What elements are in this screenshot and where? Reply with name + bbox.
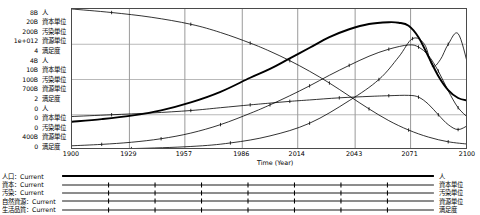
axis-unit: 資源単位: [38, 85, 66, 94]
plot-canvas: [72, 9, 467, 149]
axis-value: 4: [0, 46, 38, 55]
axis-value: 700B: [0, 84, 38, 93]
legend-row[interactable]: 人口：Current人: [0, 172, 480, 180]
series-line: [72, 22, 467, 122]
axis-row: 4B 人: [0, 56, 69, 65]
x-tick-label: 2100: [459, 150, 475, 158]
axis-unit: 満足度: [38, 95, 60, 104]
axis-unit: 人: [38, 105, 48, 114]
y-axis-group-middle: 4B 人 10B 資本単位 100B 汚染単位 700B 資源単位 2 満足度: [0, 56, 69, 103]
x-tick-label: 1986: [233, 150, 249, 158]
axis-row: 0 汚染単位: [0, 123, 69, 132]
axis-row: 0 人: [0, 104, 69, 113]
series-line: [72, 95, 467, 129]
axis-row: 400B 資源単位: [0, 132, 69, 141]
axis-unit: 資源単位: [38, 37, 66, 46]
axis-unit: 人: [38, 57, 48, 66]
axis-unit: 資本単位: [38, 18, 66, 27]
axis-row: 200B 汚染単位: [0, 27, 69, 36]
axis-row: 4 満足度: [0, 46, 69, 55]
axis-value: 2: [0, 94, 38, 103]
x-tick-label: 1957: [176, 150, 192, 158]
x-axis-title: Time (Year): [257, 159, 293, 167]
axis-unit: 汚染単位: [38, 124, 66, 133]
x-axis-ticks: 19001929195719862014204320712100: [0, 150, 480, 162]
legend-line-sample: [60, 181, 436, 189]
axis-value: 0: [0, 104, 38, 113]
axis-unit: 満足度: [38, 47, 60, 56]
axis-row: 8B 人: [0, 8, 69, 17]
x-tick-label: 1929: [120, 150, 136, 158]
legend-label: 生活品質：Current: [0, 205, 60, 214]
axis-value: 400B: [0, 132, 38, 141]
legend-row[interactable]: 生活品質：Current満足度: [0, 206, 480, 214]
axis-unit: 資本単位: [38, 114, 66, 123]
legend-row[interactable]: 資本：Current資本単位: [0, 180, 480, 188]
legend-line-sample: [60, 206, 436, 214]
axis-value: 0: [0, 113, 38, 122]
axis-value: 200B: [0, 27, 38, 36]
legend-line-sample: [60, 172, 436, 180]
axis-value: 100B: [0, 75, 38, 84]
axis-row: 100B 汚染単位: [0, 75, 69, 84]
series-line: [72, 33, 467, 149]
axis-value: 20B: [0, 17, 38, 26]
legend-line-sample: [60, 197, 436, 205]
axis-value: 4B: [0, 56, 38, 65]
axis-value: 1e+012: [0, 36, 38, 45]
axis-unit: 汚染単位: [38, 76, 66, 85]
x-tick-label: 1900: [63, 150, 79, 158]
series-line: [72, 9, 467, 144]
x-tick-label: 2071: [401, 150, 417, 158]
axis-unit: 資源単位: [38, 133, 66, 142]
axis-value: 8B: [0, 8, 38, 17]
legend-row[interactable]: 汚染：Current汚染単位: [0, 189, 480, 197]
x-tick-label: 2043: [346, 150, 362, 158]
axis-row: 10B 資本単位: [0, 65, 69, 74]
y-axis-group-top: 8B 人 20B 資本単位 200B 汚染単位 1e+012 資源単位 4 満足…: [0, 8, 69, 55]
axis-row: 2 満足度: [0, 94, 69, 103]
axis-row: 20B 資本単位: [0, 17, 69, 26]
axis-row: 0 資本単位: [0, 113, 69, 122]
chart-legend: 人口：Current人資本：Current資本単位汚染：Current汚染単位自…: [0, 172, 480, 215]
legend-line-sample: [60, 189, 436, 197]
axis-row: 1e+012 資源単位: [0, 36, 69, 45]
axis-unit: 汚染単位: [38, 28, 66, 37]
axis-value: 10B: [0, 65, 38, 74]
axis-unit: 人: [38, 9, 48, 18]
y-axis-label-stack: 8B 人 20B 資本単位 200B 汚染単位 1e+012 資源単位 4 満足…: [0, 0, 71, 150]
x-tick-label: 2014: [289, 150, 305, 158]
axis-unit: 資本単位: [38, 66, 66, 75]
axis-value: 0: [0, 123, 38, 132]
chart-root: 8B 人 20B 資本単位 200B 汚染単位 1e+012 資源単位 4 満足…: [0, 0, 480, 215]
y-axis-group-bottom: 0 人 0 資本単位 0 汚染単位 400B 資源単位 0 満足度: [0, 104, 69, 151]
axis-row: 700B 資源単位: [0, 84, 69, 93]
plot-area: [71, 8, 467, 149]
legend-row[interactable]: 自然資源：Current資源単位: [0, 197, 480, 205]
legend-unit: 満足度: [436, 205, 480, 214]
